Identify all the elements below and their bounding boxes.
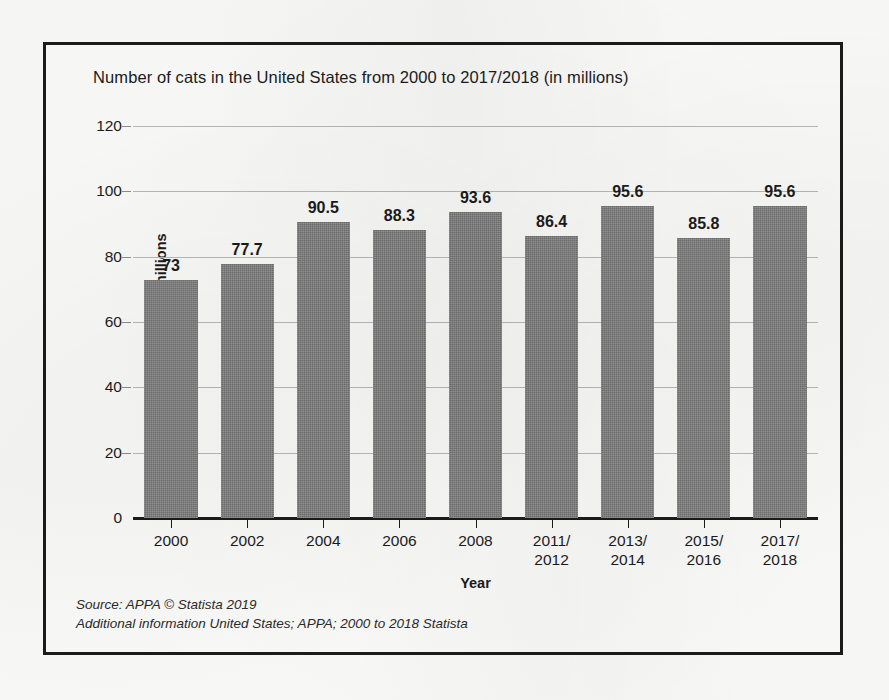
- bar[interactable]: [525, 236, 578, 518]
- y-tick-label: 80: [105, 248, 122, 266]
- bar-group: 77.7: [209, 126, 285, 518]
- x-tick-label: 2013/2014: [590, 532, 666, 570]
- bar[interactable]: [144, 280, 197, 518]
- bar-group: 95.6: [742, 126, 818, 518]
- x-tick-label: 2004: [285, 532, 361, 551]
- source-line-2: Additional information United States; AP…: [76, 614, 468, 634]
- x-tick-mark: [476, 518, 477, 528]
- x-tick-label: 2000: [133, 532, 209, 551]
- x-tick-label-line: 2008: [437, 532, 513, 551]
- x-tick-label: 2015/2016: [666, 532, 742, 570]
- bar[interactable]: [221, 264, 274, 518]
- x-tick-label-line: 2002: [209, 532, 285, 551]
- bar-value-label: 85.8: [666, 215, 742, 233]
- bar-group: 95.6: [590, 126, 666, 518]
- bar[interactable]: [373, 230, 426, 518]
- x-tick-label-line: 2013/: [590, 532, 666, 551]
- y-tick-mark: [122, 387, 131, 388]
- bar-group: 85.8: [666, 126, 742, 518]
- x-tick-mark: [399, 518, 400, 528]
- y-tick-mark: [122, 453, 131, 454]
- x-tick-label: 2002: [209, 532, 285, 551]
- x-axis-title: Year: [437, 575, 513, 591]
- x-tick-label-line: 2012: [514, 551, 590, 570]
- y-tick-label: 40: [105, 378, 122, 396]
- x-tick-label-line: 2014: [590, 551, 666, 570]
- bar-group: 88.3: [361, 126, 437, 518]
- x-tick-mark: [552, 518, 553, 528]
- bar-group: 90.5: [285, 126, 361, 518]
- bar-value-label: 90.5: [285, 199, 361, 217]
- bar-group: 86.4: [514, 126, 590, 518]
- bar-group: 93.6: [437, 126, 513, 518]
- x-tick-label-line: 2004: [285, 532, 361, 551]
- y-tick-mark: [122, 257, 131, 258]
- x-tick-label-line: 2018: [742, 551, 818, 570]
- bar-value-label: 95.6: [742, 183, 818, 201]
- bar[interactable]: [449, 212, 502, 518]
- x-tick-label-line: 2015/: [666, 532, 742, 551]
- y-tick-label: 20: [105, 444, 122, 462]
- chart-title: Number of cats in the United States from…: [93, 68, 628, 87]
- bar[interactable]: [601, 206, 654, 518]
- x-tick-mark: [323, 518, 324, 528]
- y-tick-mark: [122, 322, 131, 323]
- bar-value-label: 88.3: [361, 207, 437, 225]
- x-tick-mark: [247, 518, 248, 528]
- bar[interactable]: [297, 222, 350, 518]
- bar[interactable]: [677, 238, 730, 518]
- chart-figure-frame: Number of cats in the United States from…: [43, 42, 843, 655]
- bar-value-label: 95.6: [590, 183, 666, 201]
- x-tick-label-line: 2016: [666, 551, 742, 570]
- x-tick-label-line: 2006: [361, 532, 437, 551]
- y-tick-mark: [122, 191, 131, 192]
- source-note: Source: APPA © Statista 2019 Additional …: [76, 595, 468, 634]
- y-tick-mark: [122, 126, 131, 127]
- y-tick-label: 120: [96, 117, 122, 135]
- y-tick-label: 60: [105, 313, 122, 331]
- x-tick-label: 2006: [361, 532, 437, 551]
- bar-group: 73: [133, 126, 209, 518]
- x-tick-label-line: 2011/: [514, 532, 590, 551]
- plot-area: Number of catsin millions 02040608010012…: [133, 126, 818, 518]
- x-tick-mark: [628, 518, 629, 528]
- y-tick-label: 100: [96, 182, 122, 200]
- bar-value-label: 93.6: [437, 189, 513, 207]
- x-tick-label-line: 2000: [133, 532, 209, 551]
- bar-value-label: 86.4: [514, 213, 590, 231]
- x-tick-mark: [704, 518, 705, 528]
- bars-layer: 7377.790.588.393.686.495.685.895.6: [133, 126, 818, 518]
- bar-value-label: 73: [133, 257, 209, 275]
- x-tick-label: 2008: [437, 532, 513, 551]
- y-tick-label: 0: [113, 509, 122, 527]
- x-tick-label-line: 2017/: [742, 532, 818, 551]
- source-line-1: Source: APPA © Statista 2019: [76, 595, 468, 615]
- bar-value-label: 77.7: [209, 241, 285, 259]
- x-tick-mark: [780, 518, 781, 528]
- bar[interactable]: [753, 206, 806, 518]
- x-tick-label: 2011/2012: [514, 532, 590, 570]
- x-tick-mark: [171, 518, 172, 528]
- x-tick-label: 2017/2018: [742, 532, 818, 570]
